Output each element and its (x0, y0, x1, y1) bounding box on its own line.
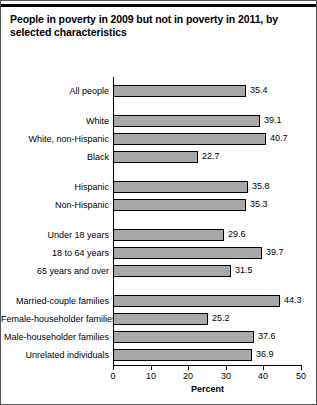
chart-figure: People in poverty in 2009 but not in pov… (0, 0, 317, 405)
bar-value-label: 37.6 (258, 330, 276, 343)
category-axis-labels: All peopleWhiteWhite, non-HispanicBlackH… (1, 77, 109, 365)
bar (113, 349, 252, 361)
x-tick-label: 50 (289, 371, 313, 382)
bar-value-label: 44.3 (284, 294, 302, 307)
category-label: White (1, 115, 109, 127)
bar (113, 331, 254, 343)
x-tick (263, 366, 264, 370)
x-tick (151, 366, 152, 370)
bar-value-label: 35.4 (250, 84, 268, 97)
bar (113, 85, 246, 97)
x-tick (113, 366, 114, 370)
chart-title: People in poverty in 2009 but not in pov… (10, 13, 302, 39)
bar-value-label: 39.1 (264, 114, 282, 127)
category-label: 18 to 64 years (1, 247, 109, 259)
category-label: Married-couple families (1, 295, 109, 307)
x-tick-label: 10 (139, 371, 163, 382)
category-label: Black (1, 151, 109, 163)
x-tick-label: 40 (251, 371, 275, 382)
x-tick-label: 30 (214, 371, 238, 382)
bar-value-label: 31.5 (235, 264, 253, 277)
bar (113, 229, 224, 241)
bar (113, 295, 280, 307)
x-axis-ticks: 01020304050 (113, 366, 303, 384)
x-tick (301, 366, 302, 370)
title-rule (1, 4, 317, 7)
category-label: All people (1, 85, 109, 97)
bar-value-label: 35.3 (250, 198, 268, 211)
category-label: Female-householder families (1, 313, 109, 325)
category-label: 65 years and over (1, 265, 109, 277)
x-tick-label: 20 (176, 371, 200, 382)
bar (113, 313, 208, 325)
x-axis-title: Percent (113, 384, 302, 394)
bar-value-label: 40.7 (270, 132, 288, 145)
bar-value-label: 22.7 (202, 150, 220, 163)
x-tick (226, 366, 227, 370)
bar (113, 265, 231, 277)
bar (113, 115, 260, 127)
bar-value-label: 29.6 (228, 228, 246, 241)
plot-area: 35.439.140.722.735.835.329.639.731.544.3… (113, 77, 301, 365)
bar (113, 181, 248, 193)
x-tick-label: 0 (101, 371, 125, 382)
bar-value-label: 25.2 (212, 312, 230, 325)
bar-value-label: 36.9 (256, 348, 274, 361)
bar-value-label: 35.8 (252, 180, 270, 193)
category-label: Hispanic (1, 181, 109, 193)
x-tick (188, 366, 189, 370)
category-label: Male-householder families (1, 331, 109, 343)
category-label: Unrelated individuals (1, 349, 109, 361)
bar (113, 199, 246, 211)
bar (113, 151, 198, 163)
bar (113, 133, 266, 145)
bar (113, 247, 262, 259)
category-label: Non-Hispanic (1, 199, 109, 211)
category-label: Under 18 years (1, 229, 109, 241)
category-label: White, non-Hispanic (1, 133, 109, 145)
bar-value-label: 39.7 (266, 246, 284, 259)
